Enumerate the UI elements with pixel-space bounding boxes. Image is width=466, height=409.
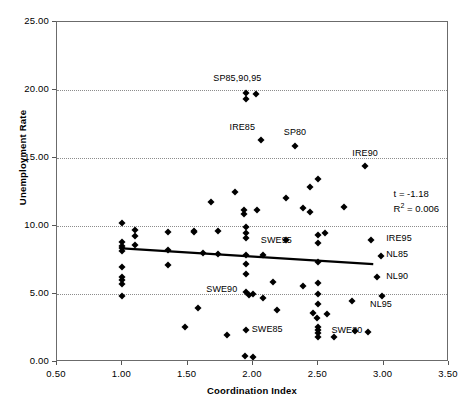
x-tick-label: 2.00 xyxy=(227,369,277,379)
y-tick-label: 5.00 xyxy=(3,288,49,298)
y-tick-label: 10.00 xyxy=(3,220,49,230)
y-axis-title: Unemployment Rate xyxy=(17,103,28,213)
x-tick-label: 1.50 xyxy=(162,369,212,379)
x-tick-label: 2.50 xyxy=(292,369,342,379)
r-squared-value: = 0.006 xyxy=(404,203,439,214)
point-label-swe90: SWE90 xyxy=(206,284,237,294)
y-tick-label: 20.00 xyxy=(3,84,49,94)
y-tick-label: 25.00 xyxy=(3,16,49,26)
point-label-nl95: NL95 xyxy=(370,299,392,309)
stats-annotation: t = -1.18 R2 = 0.006 xyxy=(394,188,439,215)
x-tick-label: 3.00 xyxy=(358,369,408,379)
point-label-swe85: SWE85 xyxy=(252,324,283,334)
point-label-ire85: IRE85 xyxy=(230,122,256,132)
point-label-nl90: NL90 xyxy=(386,271,408,281)
x-tick-label: 0.50 xyxy=(31,369,81,379)
point-label-ire90: IRE90 xyxy=(352,148,378,158)
y-tick-mark xyxy=(52,361,56,362)
r-squared-text: R2 = 0.006 xyxy=(394,200,439,215)
point-label-nl85: NL85 xyxy=(386,249,408,259)
x-tick-mark xyxy=(383,361,384,365)
x-tick-label: 1.00 xyxy=(96,369,146,379)
x-axis-title: Coordination Index xyxy=(56,385,448,396)
point-label-sp85-90-95: SP85,90,95 xyxy=(213,73,261,83)
y-tick-label: 0.00 xyxy=(3,356,49,366)
point-label-swe95: SWE95 xyxy=(261,235,292,245)
plot-area: SP85,90,95IRE85SP80IRE90SWE95IRE95NL85NL… xyxy=(56,21,448,361)
x-tick-mark xyxy=(317,361,318,365)
x-tick-mark xyxy=(56,361,57,365)
point-label-sp80: SP80 xyxy=(284,127,306,137)
x-tick-label: 3.50 xyxy=(423,369,466,379)
x-tick-mark xyxy=(252,361,253,365)
x-tick-mark xyxy=(187,361,188,365)
t-statistic-text: t = -1.18 xyxy=(394,188,439,200)
point-label-swe80: SWE80 xyxy=(331,325,362,335)
x-tick-mark xyxy=(121,361,122,365)
point-label-ire95: IRE95 xyxy=(386,233,412,243)
scatter-chart: SP85,90,95IRE85SP80IRE90SWE95IRE95NL85NL… xyxy=(0,0,466,409)
x-tick-mark xyxy=(448,361,449,365)
